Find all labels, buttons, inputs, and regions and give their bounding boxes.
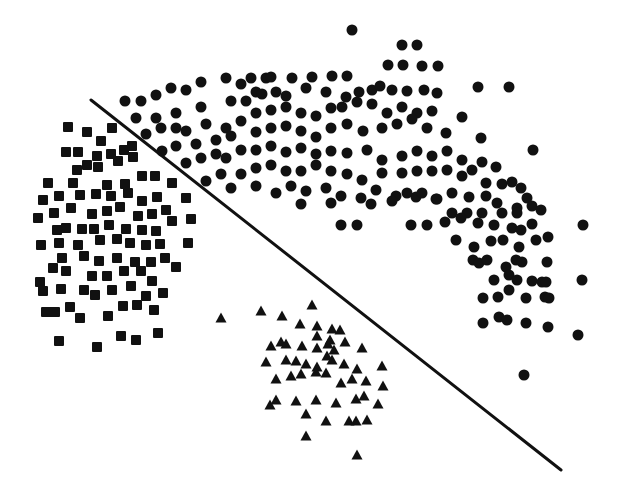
circle-marker [412,146,423,157]
square-marker [35,277,45,287]
square-marker [48,263,58,273]
circle-marker [516,225,527,236]
circle-marker [307,72,318,83]
circle-marker [478,318,489,329]
square-marker [119,266,129,276]
square-marker [93,162,103,172]
circle-marker [406,220,417,231]
square-marker [120,179,130,189]
square-marker [82,160,92,170]
circle-marker [457,171,468,182]
square-marker [136,266,146,276]
square-marker [167,178,177,188]
square-marker [102,206,112,216]
square-marker [127,141,137,151]
square-marker [38,195,48,205]
square-marker [137,196,147,206]
circle-marker [497,179,508,190]
square-marker [126,281,136,291]
square-marker [113,156,123,166]
circle-marker [427,106,438,117]
circle-marker [383,60,394,71]
square-marker [73,240,83,250]
circle-marker [397,151,408,162]
circle-marker [337,102,348,113]
square-marker [186,214,196,224]
square-marker [36,240,46,250]
circle-marker [516,183,527,194]
circle-marker [136,96,147,107]
circle-marker [504,82,515,93]
square-marker [54,336,64,346]
square-marker [103,311,113,321]
circle-marker [578,220,589,231]
circle-marker [336,191,347,202]
circle-marker [211,135,222,146]
circle-marker [301,83,312,94]
circle-marker [527,219,538,230]
square-marker [137,225,147,235]
circle-marker [296,126,307,137]
circle-marker [543,232,554,243]
circle-marker [531,235,542,246]
circle-marker [433,61,444,72]
square-marker [102,271,112,281]
circle-marker [412,166,423,177]
circle-marker [171,141,182,152]
square-marker [66,203,76,213]
circle-marker [141,129,152,140]
square-marker [65,302,75,312]
circle-marker [216,169,227,180]
circle-marker [296,143,307,154]
circle-marker [356,193,367,204]
circle-marker [191,139,202,150]
circle-marker [422,123,433,134]
circle-marker [311,149,322,160]
square-marker [82,127,92,137]
circle-marker [521,293,532,304]
square-marker [75,313,85,323]
circle-marker [441,128,452,139]
circle-marker [296,166,307,177]
square-marker [94,256,104,266]
square-marker [77,224,87,234]
circle-marker [342,119,353,130]
square-marker [152,192,162,202]
circle-marker [362,145,373,156]
circle-marker [311,160,322,171]
circle-marker [181,158,192,169]
circle-marker [352,220,363,231]
circle-marker [481,191,492,202]
circle-marker [507,177,518,188]
circle-marker [481,178,492,189]
square-marker [38,286,48,296]
circle-marker [387,85,398,96]
circle-marker [342,148,353,159]
circle-marker [432,194,443,205]
circle-marker [456,213,467,224]
circle-marker [457,112,468,123]
circle-marker [151,90,162,101]
circle-marker [498,235,509,246]
square-marker [61,147,71,157]
circle-marker [467,165,478,176]
circle-marker [517,257,528,268]
circle-marker [358,126,369,137]
circle-marker [544,293,555,304]
square-marker [183,238,193,248]
circle-marker [422,220,433,231]
square-marker [54,191,64,201]
square-marker [106,191,116,201]
circle-marker [367,99,378,110]
circle-marker [397,40,408,51]
square-marker [90,290,100,300]
circle-marker [311,111,322,122]
circle-marker [473,218,484,229]
circle-marker [271,188,282,199]
square-marker [128,152,138,162]
square-marker [123,188,133,198]
square-marker [107,123,117,133]
circle-marker [301,186,312,197]
square-marker [104,220,114,230]
square-marker [141,240,151,250]
